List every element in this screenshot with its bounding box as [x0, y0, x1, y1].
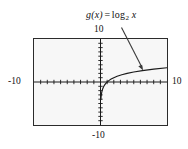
log-base-subscript-text: 2	[125, 14, 129, 22]
plot-graphics	[34, 39, 167, 125]
y-axis-bottom-label: -10	[92, 131, 105, 141]
x-axis-right-label: 10	[172, 77, 182, 87]
variable-text: x	[132, 9, 137, 20]
log-function-graph-figure: g(x)=log2 x 10 -10 -10 10	[0, 0, 188, 149]
function-name-text: g(x)	[86, 9, 103, 20]
function-annotation-label: g(x)=log2 x	[86, 10, 136, 22]
x-axis-left-label: -10	[8, 77, 21, 87]
log-operator-text: log	[112, 9, 125, 20]
calculator-plot-frame	[33, 38, 168, 126]
y-axis-top-label: 10	[94, 25, 104, 35]
equals-sign-text: =	[103, 9, 112, 20]
